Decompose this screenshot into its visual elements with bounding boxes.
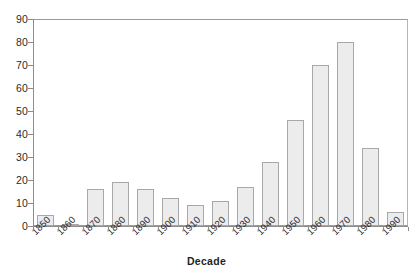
x-axis-tick [408, 227, 409, 231]
x-axis-tick [33, 227, 34, 231]
x-axis-tick [283, 227, 284, 231]
y-axis-tick-label: 50 [0, 106, 28, 117]
x-axis-tick [308, 227, 309, 231]
y-axis-tick-label: 70 [0, 60, 28, 71]
y-axis-tick-label: 90 [0, 14, 28, 25]
x-axis-tick [358, 227, 359, 231]
x-axis-tick [133, 227, 134, 231]
x-axis-tick [108, 227, 109, 231]
y-axis-tick [28, 203, 33, 204]
y-axis-tick [28, 111, 33, 112]
y-axis-tick [28, 157, 33, 158]
y-axis-tick [28, 65, 33, 66]
y-axis-tick-label: 10 [0, 198, 28, 209]
y-axis-tick-label: 60 [0, 83, 28, 94]
x-axis-tick [233, 227, 234, 231]
y-axis-tick [28, 42, 33, 43]
bar-chart: 0102030405060708090 18501860187018801890… [0, 0, 413, 273]
x-axis-tick [83, 227, 84, 231]
x-axis-tick [258, 227, 259, 231]
bar [287, 120, 305, 226]
bar [312, 65, 330, 226]
x-axis-title: Decade [0, 255, 413, 267]
x-axis-tick [333, 227, 334, 231]
bar [337, 42, 355, 226]
y-axis-tick [28, 19, 33, 20]
x-axis-tick [58, 227, 59, 231]
y-axis-tick-label: 80 [0, 37, 28, 48]
y-axis-tick-label: 20 [0, 175, 28, 186]
x-axis-tick [183, 227, 184, 231]
caption-smear [0, 268, 413, 273]
bars-layer [33, 19, 408, 226]
x-axis-tick [383, 227, 384, 231]
y-axis-tick-label: 30 [0, 152, 28, 163]
y-axis-tick [28, 134, 33, 135]
x-axis-tick [158, 227, 159, 231]
x-axis-tick [208, 227, 209, 231]
y-axis-tick-label: 40 [0, 129, 28, 140]
y-axis-tick [28, 88, 33, 89]
y-axis-tick [28, 180, 33, 181]
